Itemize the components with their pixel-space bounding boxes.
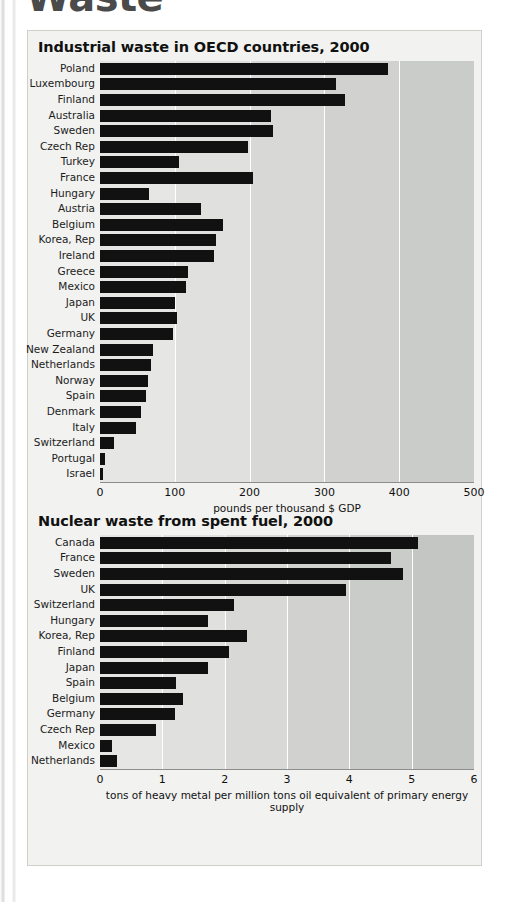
x-tick-label: 400 <box>379 486 419 499</box>
x-tick-label: 5 <box>392 773 432 786</box>
bar <box>100 453 105 465</box>
category-label: Korea, Rep <box>39 233 95 245</box>
category-label: Belgium <box>52 692 95 704</box>
category-label: Germany <box>47 707 95 719</box>
x-tick-label: 500 <box>454 486 494 499</box>
bar <box>100 312 177 324</box>
category-label: Israel <box>66 467 95 479</box>
bar <box>100 188 149 200</box>
bar <box>100 552 391 564</box>
x-tick-label: 100 <box>155 486 195 499</box>
category-label: Finland <box>57 645 95 657</box>
gridline <box>250 61 251 482</box>
x-axis-line <box>100 769 474 770</box>
category-label: Czech Rep <box>40 140 95 152</box>
category-label: Turkey <box>61 155 95 167</box>
bar <box>100 740 112 752</box>
category-label: Finland <box>57 93 95 105</box>
bar <box>100 141 248 153</box>
x-tick-label: 6 <box>454 773 494 786</box>
category-label: Switzerland <box>34 598 95 610</box>
bar <box>100 630 247 642</box>
bar <box>100 677 176 689</box>
category-label: Hungary <box>50 614 95 626</box>
bar <box>100 344 153 356</box>
bar <box>100 250 214 262</box>
bar <box>100 615 208 627</box>
plot-area-nuclear: CanadaFranceSwedenUKSwitzerlandHungaryKo… <box>28 535 481 865</box>
category-label: Spain <box>66 389 95 401</box>
chart-nuclear-waste: Nuclear waste from spent fuel, 2000 Cana… <box>28 509 481 865</box>
x-tick-label: 3 <box>267 773 307 786</box>
bar <box>100 281 186 293</box>
category-label: Norway <box>55 374 95 386</box>
category-label: Luxembourg <box>30 77 95 89</box>
category-label: Mexico <box>58 280 95 292</box>
category-label: Japan <box>66 296 95 308</box>
bar <box>100 406 141 418</box>
bar <box>100 375 148 387</box>
category-label: Germany <box>47 327 95 339</box>
page-heading: Waste <box>26 0 163 20</box>
bar <box>100 125 273 137</box>
bar <box>100 537 418 549</box>
category-label: Italy <box>72 421 95 433</box>
bar <box>100 468 103 480</box>
bar <box>100 755 117 767</box>
plot-band <box>250 61 325 482</box>
category-label: Ireland <box>59 249 95 261</box>
plot-band <box>399 61 474 482</box>
chart-title-industrial: Industrial waste in OECD countries, 2000 <box>28 39 369 55</box>
x-tick-label: 1 <box>142 773 182 786</box>
category-label: Canada <box>55 536 95 548</box>
category-label: Sweden <box>54 567 96 579</box>
category-label: Austria <box>58 202 95 214</box>
x-tick-label: 0 <box>80 773 120 786</box>
category-label: Australia <box>49 109 95 121</box>
category-label: New Zealand <box>26 343 95 355</box>
bar <box>100 568 403 580</box>
gridline <box>399 61 400 482</box>
bar <box>100 110 271 122</box>
figure-container: Industrial waste in OECD countries, 2000… <box>27 30 482 866</box>
bar <box>100 708 175 720</box>
bar <box>100 234 216 246</box>
category-label: Mexico <box>58 739 95 751</box>
category-label: Japan <box>66 661 95 673</box>
gridline <box>324 61 325 482</box>
bar <box>100 599 234 611</box>
bar <box>100 584 346 596</box>
category-label: UK <box>80 583 95 595</box>
x-tick-label: 200 <box>230 486 270 499</box>
page-gutter-left <box>0 0 5 902</box>
bar <box>100 203 201 215</box>
x-axis-caption: tons of heavy metal per million tons oil… <box>100 789 474 813</box>
bar <box>100 646 229 658</box>
bar <box>100 328 173 340</box>
bar <box>100 172 253 184</box>
category-label: France <box>60 551 95 563</box>
x-tick-label: 300 <box>304 486 344 499</box>
category-label: Netherlands <box>31 754 95 766</box>
chart-industrial-waste: Industrial waste in OECD countries, 2000… <box>28 31 481 505</box>
bar <box>100 266 188 278</box>
category-label: Denmark <box>47 405 95 417</box>
category-label: Sweden <box>54 124 96 136</box>
bar <box>100 724 156 736</box>
bar <box>100 78 336 90</box>
bar <box>100 63 388 75</box>
category-label: Poland <box>60 62 95 74</box>
category-label: UK <box>80 311 95 323</box>
bar <box>100 297 175 309</box>
bar <box>100 94 345 106</box>
bar <box>100 437 114 449</box>
x-tick-label: 2 <box>205 773 245 786</box>
plot-band <box>412 535 474 769</box>
category-label: Korea, Rep <box>39 629 95 641</box>
bar <box>100 390 146 402</box>
page-gutter-inner <box>12 0 16 902</box>
category-label: Switzerland <box>34 436 95 448</box>
bar <box>100 219 223 231</box>
plot-band <box>324 61 399 482</box>
category-label: Belgium <box>52 218 95 230</box>
